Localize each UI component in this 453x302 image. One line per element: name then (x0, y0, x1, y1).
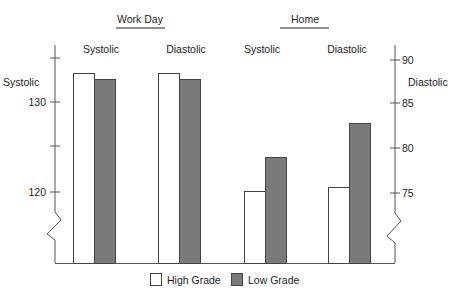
bar-chart: Work Day Home Systolic Diastolic Systoli… (0, 0, 453, 302)
legend-swatch-high-grade (150, 273, 162, 286)
right-axis-label: Diastolic (408, 76, 448, 88)
left-axis-label: Systolic (3, 76, 39, 88)
right-axis-line (387, 45, 401, 263)
left-axis-line (47, 45, 61, 263)
left-tick-label-130: 130 (28, 96, 46, 108)
group-header-home: Home (291, 13, 319, 25)
left-tick-label-120: 120 (28, 186, 46, 198)
legend-item-high-grade: High Grade (150, 273, 221, 286)
bar-workday-systolic-high-grade (74, 74, 95, 264)
bar-home-diastolic-low-grade (350, 124, 371, 264)
right-tick-label-85: 85 (402, 97, 414, 109)
legend-swatch-low-grade (231, 273, 243, 286)
subheader-workday-diastolic: Diastolic (166, 43, 206, 55)
bar-workday-diastolic-low-grade (180, 80, 201, 264)
bar-home-systolic-low-grade (266, 158, 287, 264)
right-tick-label-90: 90 (402, 54, 414, 66)
right-tick-label-75: 75 (402, 187, 414, 199)
subheader-home-systolic: Systolic (244, 43, 280, 55)
bar-workday-diastolic-high-grade (159, 74, 180, 264)
legend-label-high-grade: High Grade (167, 274, 221, 286)
subheader-workday-systolic: Systolic (83, 43, 119, 55)
right-tick-label-80: 80 (402, 142, 414, 154)
bar-workday-systolic-low-grade (95, 80, 116, 264)
legend-item-low-grade: Low Grade (231, 273, 299, 286)
bar-home-diastolic-high-grade (329, 188, 350, 264)
group-header-workday: Work Day (117, 13, 164, 25)
bar-home-systolic-high-grade (245, 192, 266, 264)
subheader-home-diastolic: Diastolic (327, 43, 367, 55)
legend-label-low-grade: Low Grade (248, 274, 299, 286)
